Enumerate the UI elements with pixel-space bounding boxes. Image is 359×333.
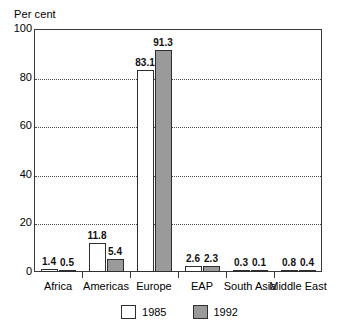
x-axis-tick [226, 272, 227, 278]
x-axis-tick [274, 272, 275, 278]
legend-label: 1992 [214, 307, 238, 318]
plot-area [34, 29, 322, 272]
bar-chart: Per cent 020406080100 1.40.511.85.483.19… [0, 0, 359, 333]
gridline [35, 127, 321, 128]
gridline [35, 176, 321, 177]
x-axis-tick [82, 272, 83, 278]
legend-item: 1985 [121, 305, 166, 319]
legend-swatch [193, 305, 208, 319]
y-tick-label: 40 [6, 169, 32, 180]
y-tick-label: 20 [6, 217, 32, 228]
x-axis-tick [178, 272, 179, 278]
y-axis-title: Per cent [14, 8, 56, 20]
y-tick-label: 60 [6, 120, 32, 131]
legend-item: 1992 [193, 305, 238, 319]
y-tick-label: 0 [6, 266, 32, 277]
legend-swatch [121, 305, 136, 319]
y-tick-label: 100 [6, 23, 32, 34]
gridline [35, 79, 321, 80]
gridline [35, 224, 321, 225]
chart-legend: 19851992 [0, 305, 359, 319]
x-axis-tick [130, 272, 131, 278]
y-tick-label: 80 [6, 72, 32, 83]
x-category-label: Middle East [268, 280, 328, 292]
legend-label: 1985 [142, 307, 166, 318]
